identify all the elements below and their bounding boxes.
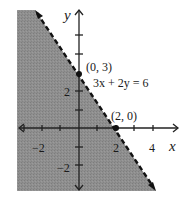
point-a-label: (0, 3) <box>86 60 112 74</box>
tick-label-x-2: 2 <box>113 141 119 155</box>
inequality-graph: y x (0, 3) 3x + 2y = 6 (2, 0) −2 2 4 2 −… <box>0 0 193 209</box>
point-b-label: (2, 0) <box>111 109 137 123</box>
y-axis-label: y <box>62 7 71 23</box>
shaded-region <box>17 10 156 191</box>
equation-label: 3x + 2y = 6 <box>93 76 149 90</box>
tick-label-y-neg2: −2 <box>57 161 70 175</box>
tick-label-x-neg2: −2 <box>32 141 45 155</box>
point-x-intercept <box>113 125 119 131</box>
x-axis-label: x <box>168 138 176 154</box>
tick-label-x-4: 4 <box>149 141 155 155</box>
point-y-intercept <box>76 71 82 77</box>
tick-label-y-2: 2 <box>64 85 70 99</box>
